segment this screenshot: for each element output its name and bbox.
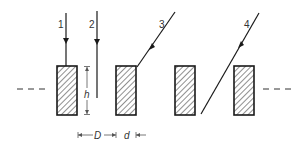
ray-label-2: 2 <box>89 19 95 30</box>
ray-label-3: 3 <box>159 19 165 30</box>
dimension-label-h: h <box>84 89 90 100</box>
dimension-h: h <box>84 67 90 115</box>
dimension-label-d: d <box>124 130 130 141</box>
arrow-down-icon <box>63 38 69 44</box>
plate-1 <box>57 66 77 115</box>
plate-2 <box>116 66 136 115</box>
ray-label-4: 4 <box>244 19 250 30</box>
arrow-diagonal-icon <box>149 43 155 50</box>
grating-diagram: 1 2 3 4 h D d <box>0 0 306 148</box>
dimension-D: D <box>78 130 116 141</box>
dimension-d: d <box>124 130 146 141</box>
arrow-diagonal-icon <box>238 41 244 48</box>
ray-1: 1 <box>58 13 69 66</box>
plate-3 <box>175 66 195 115</box>
ray-label-1: 1 <box>58 19 64 30</box>
ray-3: 3 <box>137 12 175 67</box>
dimension-label-D: D <box>94 130 101 141</box>
plate-4 <box>234 66 254 115</box>
ray-2: 2 <box>89 11 100 98</box>
arrow-down-icon <box>94 39 100 45</box>
